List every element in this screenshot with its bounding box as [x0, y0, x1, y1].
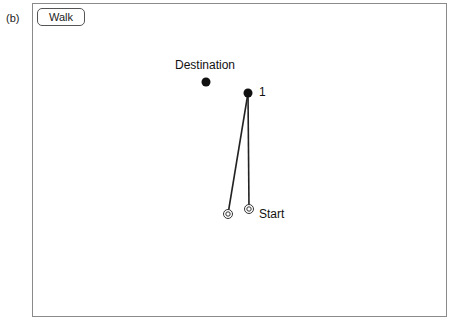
path-line-b	[248, 93, 249, 209]
start-label: Start	[259, 207, 284, 221]
destination-label: Destination	[175, 58, 235, 72]
trajectory-plot	[0, 0, 457, 325]
path-line-a	[228, 93, 248, 214]
start-marker-a[interactable]	[224, 210, 233, 219]
destination-dot[interactable]	[202, 78, 211, 87]
start-marker-b[interactable]	[245, 205, 254, 214]
point-1-label: 1	[259, 85, 266, 99]
point-1-dot[interactable]	[244, 89, 253, 98]
